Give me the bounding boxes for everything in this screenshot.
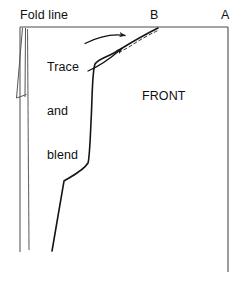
trace-pointer-arrow xyxy=(85,35,125,44)
trace-and-blend-line-3: blend xyxy=(47,148,79,163)
pattern-drawing-canvas xyxy=(0,0,248,284)
dart-leg-right xyxy=(25,28,26,97)
trace-and-blend-line-2: and xyxy=(47,104,79,119)
trace-and-blend-line-1: Trace xyxy=(47,60,79,75)
trace-and-blend-label: Trace and blend xyxy=(47,30,79,192)
point-a-label: A xyxy=(221,8,229,23)
front-piece-label: FRONT xyxy=(142,89,186,104)
blend-dashed-curve xyxy=(120,31,157,52)
point-b-label: B xyxy=(150,8,158,23)
pattern-diagram: Fold line B A Trace and blend FRONT xyxy=(0,0,248,284)
fold-line-label: Fold line xyxy=(20,8,68,23)
inner-vertical-guideline xyxy=(28,29,30,250)
